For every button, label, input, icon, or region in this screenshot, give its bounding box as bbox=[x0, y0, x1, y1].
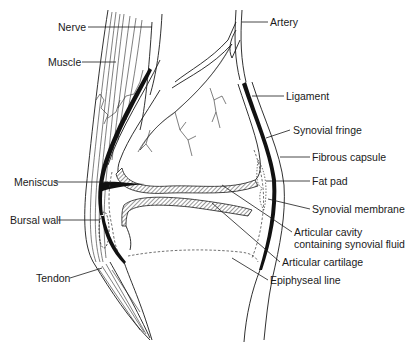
label-articular-cartilage: Articular cartilage bbox=[282, 256, 363, 268]
label-tendon: Tendon bbox=[36, 272, 71, 284]
leader-lines bbox=[55, 22, 310, 280]
epiphyseal-line bbox=[128, 250, 258, 262]
label-articular-cavity-1: Articular cavity bbox=[294, 226, 363, 238]
label-articular-cavity-2: containing synovial fluid bbox=[294, 238, 405, 250]
label-nerve: Nerve bbox=[58, 21, 86, 33]
label-artery: Artery bbox=[270, 16, 299, 28]
label-ligament: Ligament bbox=[286, 90, 329, 102]
knee-joint-diagram: Nerve Muscle Meniscus Bursal wall Tendon… bbox=[0, 0, 420, 354]
fat-pad bbox=[257, 160, 266, 210]
label-bursal-wall: Bursal wall bbox=[10, 214, 61, 226]
label-fibrous-capsule: Fibrous capsule bbox=[312, 151, 386, 163]
articular-cartilage-lower bbox=[122, 197, 252, 226]
label-epiphyseal-line: Epiphyseal line bbox=[270, 274, 341, 286]
tibia-outline bbox=[95, 216, 260, 342]
label-synovial-fringe: Synovial fringe bbox=[293, 124, 362, 136]
label-muscle: Muscle bbox=[48, 56, 81, 68]
artery-branches bbox=[138, 44, 232, 156]
label-fat-pad: Fat pad bbox=[312, 175, 348, 187]
label-meniscus: Meniscus bbox=[14, 176, 58, 188]
articular-cartilage-upper bbox=[116, 168, 258, 193]
label-synovial-membrane: Synovial membrane bbox=[312, 203, 405, 215]
